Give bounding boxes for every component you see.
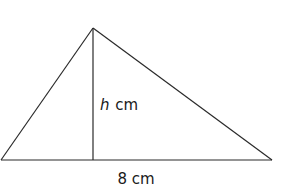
height-unit: cm (115, 96, 138, 114)
triangle-left-side (1, 28, 93, 160)
triangle-diagram: h cm 8 cm (0, 0, 286, 196)
height-label: h cm (100, 96, 138, 114)
base-label: 8 cm (117, 170, 154, 188)
height-variable: h (100, 96, 110, 114)
triangle-right-side (93, 28, 272, 160)
